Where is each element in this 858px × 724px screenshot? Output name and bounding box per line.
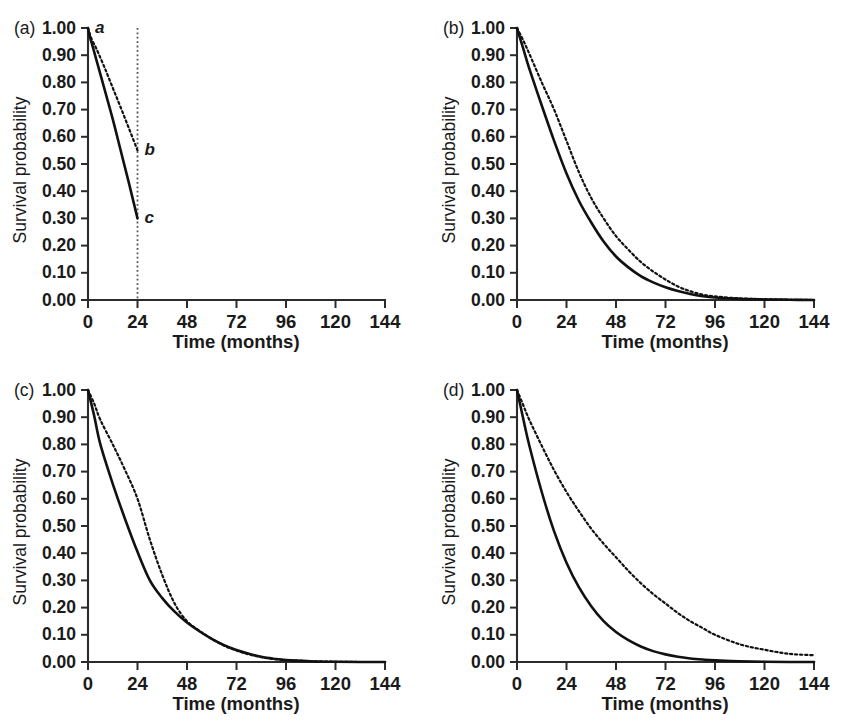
panel-d-xtick-label: 0 [512,673,522,694]
panel-b-x-axis: 024487296120144 [512,300,830,332]
panel-d-curve-dotted [517,390,814,655]
panel-d-ytick-label: 0.00 [471,652,505,672]
panel-b-xtick-label: 48 [606,311,627,332]
survival-curves-figure: (a) 0.000.100.200.300.400.500.600.700.80… [0,0,858,724]
panel-a-y-axis: 0.000.100.200.300.400.500.600.700.800.90… [42,18,88,310]
panel-b-ytick-label: 0.50 [471,154,505,174]
panel-c-ytick-label: 0.90 [42,407,76,427]
panel-c-plot: (c) 0.000.100.200.300.400.500.600.700.80… [0,362,429,724]
panel-a-ytick-label: 0.90 [42,45,76,65]
panel-a-curve-solid [88,28,138,218]
panel-c-ytick-label: 0.30 [42,570,76,590]
panel-a-tag: (a) [14,18,35,38]
panel-d-xtick-label: 144 [799,673,831,694]
panel-b-plot: (b) 0.000.100.200.300.400.500.600.700.80… [429,0,858,362]
panel-a-curve-dotted [88,28,138,150]
panel-b-xtick-label: 120 [749,311,780,332]
panel-c-ytick-label: 0.10 [42,624,76,644]
panel-a-point-label-c: c [145,208,155,227]
panel-c-ytick-label: 0.20 [42,597,76,617]
panel-b-ytick-label: 1.00 [471,18,505,38]
panel-c-ylabel: Survival probability [10,458,30,605]
panel-d-ytick-label: 0.30 [471,570,505,590]
panel-d-xtick-label: 120 [749,673,780,694]
panel-c-ytick-label: 0.70 [42,461,76,481]
panel-b-ytick-label: 0.30 [471,208,505,228]
panel-d-curve-solid [517,390,814,662]
panel-a-ytick-label: 0.20 [42,235,76,255]
panel-d-xtick-label: 24 [556,673,577,694]
panel-b-xtick-label: 24 [556,311,577,332]
panel-a-xtick-label: 96 [276,311,297,332]
panel-a-xtick-label: 48 [177,311,198,332]
panel-b: (b) 0.000.100.200.300.400.500.600.700.80… [429,0,858,362]
panel-d-ytick-label: 1.00 [471,380,505,400]
panel-c-ytick-label: 0.80 [42,434,76,454]
panel-b-xlabel: Time (months) [601,331,728,352]
panel-b-ytick-label: 0.60 [471,126,505,146]
panel-b-ytick-label: 0.00 [471,290,505,310]
panel-a-xtick-label: 144 [370,311,402,332]
panel-d-x-axis: 024487296120144 [512,662,830,694]
panel-a-annotations: abc [95,18,155,227]
panel-c-series [88,390,385,662]
panel-b-ytick-label: 0.10 [471,262,505,282]
panel-c-xtick-label: 24 [127,673,148,694]
panel-b-xtick-label: 96 [705,311,726,332]
panel-a-ytick-label: 0.70 [42,99,76,119]
panel-c-y-axis: 0.000.100.200.300.400.500.600.700.800.90… [42,380,88,672]
panel-c-ytick-label: 0.40 [42,543,76,563]
panel-d-series [517,390,814,662]
panel-a-xtick-label: 24 [127,311,148,332]
panel-c-ytick-label: 0.50 [42,516,76,536]
panel-c-tag: (c) [14,380,34,400]
panel-d-ytick-label: 0.20 [471,597,505,617]
panel-c-xtick-label: 120 [320,673,351,694]
panel-b-ytick-label: 0.40 [471,181,505,201]
panel-a-ytick-label: 0.40 [42,181,76,201]
panel-a-plot: (a) 0.000.100.200.300.400.500.600.700.80… [0,0,429,362]
panel-c-curve-solid [88,390,385,662]
panel-c-ytick-label: 0.00 [42,652,76,672]
panel-c-ytick-label: 1.00 [42,380,76,400]
panel-d-tag: (d) [443,380,464,400]
panel-d-ylabel: Survival probability [439,458,459,605]
panel-a-ylabel: Survival probability [10,96,30,243]
panel-b-ytick-label: 0.70 [471,99,505,119]
panel-a-ytick-label: 0.00 [42,290,76,310]
panel-b-xtick-label: 0 [512,311,522,332]
panel-b-series [517,28,814,300]
panel-b-ylabel: Survival probability [439,96,459,243]
panel-d-ytick-label: 0.40 [471,543,505,563]
panel-d-ytick-label: 0.60 [471,488,505,508]
panel-b-tag: (b) [443,18,464,38]
panel-d-ytick-label: 0.70 [471,461,505,481]
panel-a-point-label-a: a [95,18,104,37]
panel-a-xlabel: Time (months) [172,331,299,352]
panel-b-y-axis: 0.000.100.200.300.400.500.600.700.800.90… [471,18,517,310]
panel-b-ytick-label: 0.80 [471,72,505,92]
panel-d-y-axis: 0.000.100.200.300.400.500.600.700.800.90… [471,380,517,672]
panel-c-x-axis: 024487296120144 [83,662,401,694]
panel-b-xtick-label: 72 [655,311,676,332]
panel-a-xtick-label: 0 [83,311,93,332]
panel-d-ytick-label: 0.10 [471,624,505,644]
panel-a: (a) 0.000.100.200.300.400.500.600.700.80… [0,0,429,362]
panel-d: (d) 0.000.100.200.300.400.500.600.700.80… [429,362,858,724]
panel-b-ytick-label: 0.20 [471,235,505,255]
panel-c-xtick-label: 0 [83,673,93,694]
panel-d-ytick-label: 0.80 [471,434,505,454]
panel-c: (c) 0.000.100.200.300.400.500.600.700.80… [0,362,429,724]
panel-c-xlabel: Time (months) [172,693,299,714]
panel-b-ytick-label: 0.90 [471,45,505,65]
panel-d-ytick-label: 0.50 [471,516,505,536]
panel-a-series [88,28,138,300]
panel-a-ytick-label: 0.80 [42,72,76,92]
panel-a-ytick-label: 1.00 [42,18,76,38]
panel-d-ytick-label: 0.90 [471,407,505,427]
panel-c-xtick-label: 72 [226,673,247,694]
panel-c-ytick-label: 0.60 [42,488,76,508]
panel-b-curve-solid [517,28,814,300]
panel-a-ytick-label: 0.10 [42,262,76,282]
panel-b-xtick-label: 144 [799,311,831,332]
